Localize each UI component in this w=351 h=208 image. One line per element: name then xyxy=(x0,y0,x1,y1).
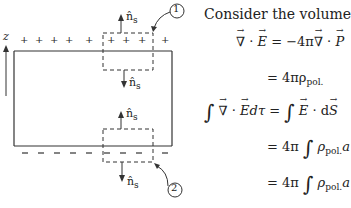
normal-label-top-down: n̂s xyxy=(129,76,141,91)
equation-3: ∫ ∇ · Edτ = ∫ E · dS xyxy=(204,100,338,124)
polarized-slab-diagram xyxy=(0,0,200,208)
z-axis-label: z xyxy=(3,30,9,43)
plus-charge: + xyxy=(20,34,28,45)
plus-charge: + xyxy=(161,34,169,45)
plus-charge: + xyxy=(138,34,146,45)
callout-2-pointer xyxy=(154,163,182,197)
intro-text: Consider the volume xyxy=(204,6,351,22)
slab-rectangle xyxy=(14,51,172,146)
equation-4: = 4π ∫ ρpol.a xyxy=(267,136,350,160)
normal-arrow-bottom-down xyxy=(119,162,125,182)
normal-arrow-top-up xyxy=(118,14,124,33)
z-axis xyxy=(3,45,9,96)
equation-2: = 4πρpol. xyxy=(267,70,323,87)
normal-label-bottom-up: n̂s xyxy=(126,107,138,122)
normal-arrow-bottom-up xyxy=(118,111,124,129)
normal-label-top-up: n̂s xyxy=(126,10,138,25)
plus-charge: + xyxy=(35,34,43,45)
plus-charge: + xyxy=(122,34,130,45)
normal-arrow-top-down xyxy=(121,70,127,88)
callout-1-label: 1 xyxy=(173,3,179,14)
equation-1: ∇ · E = −4π∇ · P xyxy=(236,34,344,49)
normal-label-bottom-down: n̂s xyxy=(127,175,139,190)
equation-5: = 4π ∫ ρpol.a xyxy=(267,172,350,196)
plus-charge: + xyxy=(65,34,73,45)
plus-charge: + xyxy=(50,34,58,45)
plus-charge: + xyxy=(85,34,93,45)
callout-2-label: 2 xyxy=(171,182,177,193)
plus-charge: + xyxy=(107,34,115,45)
